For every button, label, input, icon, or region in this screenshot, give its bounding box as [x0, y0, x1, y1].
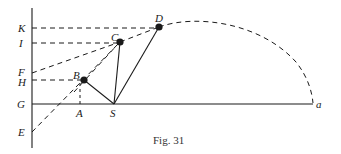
- point-B: [80, 76, 87, 83]
- figure-caption: Fig. 31: [153, 134, 184, 146]
- label-K: K: [17, 22, 26, 34]
- line-BS: [84, 80, 114, 104]
- label-a: a: [316, 98, 322, 110]
- dashed-arc-D-a: [159, 21, 313, 103]
- label-B: B: [73, 69, 80, 81]
- dashed-B-C-parallel: [74, 44, 118, 92]
- label-H: H: [17, 76, 27, 88]
- dashed-C-D: [120, 27, 159, 42]
- label-E: E: [17, 126, 25, 138]
- label-G: G: [17, 98, 25, 110]
- label-A: A: [75, 107, 83, 119]
- label-D: D: [154, 12, 163, 24]
- label-C: C: [111, 31, 119, 43]
- geometry-figure: K I F H G E A B C D S a Fig. 31: [0, 0, 341, 154]
- point-D: [155, 23, 162, 30]
- label-I: I: [18, 37, 24, 49]
- label-S: S: [110, 107, 116, 119]
